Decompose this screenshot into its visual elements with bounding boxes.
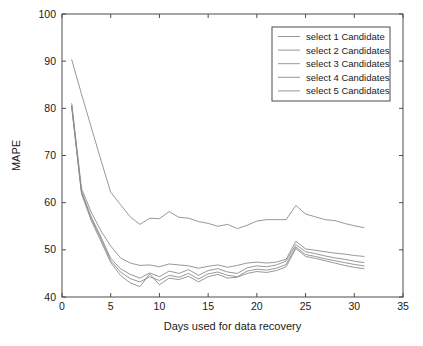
series-line-4 (72, 106, 364, 281)
y-tick-label: 100 (38, 8, 56, 20)
x-tick-label: 5 (108, 300, 114, 312)
x-tick-label: 20 (251, 300, 263, 312)
y-tick-label: 70 (44, 149, 56, 161)
series-line-5 (72, 107, 364, 286)
x-tick-label: 0 (59, 300, 65, 312)
x-tick-label: 10 (154, 300, 166, 312)
y-tick-label: 80 (44, 102, 56, 114)
x-tick-label: 30 (348, 300, 360, 312)
y-tick-label: 40 (44, 291, 56, 303)
series-line-2 (72, 104, 364, 269)
y-tick-label: 50 (44, 243, 56, 255)
legend-label-5: select 5 Candidates (306, 85, 390, 96)
legend-label-1: select 1 Candidate (306, 31, 385, 42)
y-tick-label: 60 (44, 196, 56, 208)
chart-figure: 05101520253035405060708090100Days used f… (0, 0, 423, 346)
line-chart: 05101520253035405060708090100Days used f… (0, 0, 423, 346)
legend-label-4: select 4 Candidates (306, 72, 390, 83)
y-axis-title: MAPE (10, 140, 22, 171)
y-tick-label: 90 (44, 55, 56, 67)
x-tick-label: 25 (300, 300, 312, 312)
x-axis-title: Days used for data recovery (164, 320, 302, 332)
x-tick-label: 35 (397, 300, 409, 312)
legend-layer: select 1 Candidateselect 2 Candidatessel… (272, 27, 390, 101)
legend-label-3: select 3 Candidates (306, 58, 390, 69)
x-tick-label: 15 (202, 300, 214, 312)
legend-label-2: select 2 Candidates (306, 45, 390, 56)
